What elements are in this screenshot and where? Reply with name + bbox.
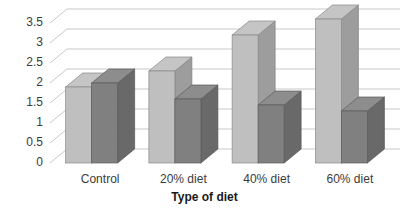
x-tick-label: 20% diet [138, 172, 228, 186]
y-tick-label: 1 [0, 116, 43, 128]
bar-2-1 [258, 91, 301, 163]
bar-0-1 [92, 69, 135, 163]
y-tick-label: 3.5 [0, 16, 43, 28]
x-tick-label: Control [55, 172, 145, 186]
y-tick-label: 0.5 [0, 136, 43, 148]
y-tick-label: 0 [0, 156, 43, 168]
x-tick-label: 60% diet [305, 172, 395, 186]
bar-1-1 [175, 85, 218, 163]
y-tick-label: 2.5 [0, 56, 43, 68]
y-tick-label: 1.5 [0, 96, 43, 108]
x-tick-label: 40% diet [222, 172, 312, 186]
y-tick-label: 2 [0, 76, 43, 88]
bar-3-1 [341, 97, 384, 163]
chart-container: 00.511.522.533.5 Control20% diet40% diet… [0, 0, 409, 215]
x-axis-title: Type of diet [0, 190, 409, 204]
y-tick-label: 3 [0, 36, 43, 48]
